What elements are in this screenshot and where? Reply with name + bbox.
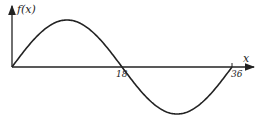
sine-wave-diagram xyxy=(0,0,266,124)
tick-18-label: 18 xyxy=(116,70,127,79)
tick-36-label: 36 xyxy=(231,70,242,79)
x-axis-label: x xyxy=(243,53,249,64)
y-axis-label: f(x) xyxy=(17,4,36,15)
